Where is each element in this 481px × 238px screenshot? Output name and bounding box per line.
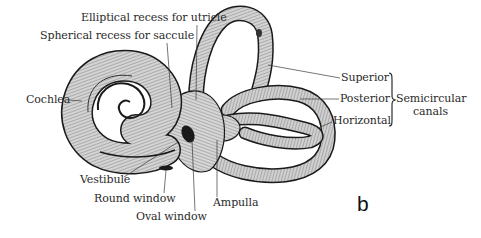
label-ampulla: Ampulla <box>213 197 258 209</box>
label-posterior: Posterior <box>340 93 390 105</box>
label-elliptical-recess: Elliptical recess for utricle <box>81 12 227 24</box>
inner-ear-figure: Elliptical recess for utricle Spherical … <box>0 0 481 238</box>
label-spherical-recess: Spherical recess for saccule <box>40 30 194 42</box>
round-window-shape <box>159 166 173 171</box>
superior-canal <box>196 13 266 100</box>
label-semicircular: Semicircular <box>396 93 466 105</box>
label-round-window: Round window <box>94 193 176 205</box>
label-canals: canals <box>413 106 448 118</box>
panel-letter: b <box>357 193 369 215</box>
label-oval-window: Oval window <box>136 211 207 223</box>
cochlea-shape <box>77 66 175 159</box>
label-horizontal: Horizontal <box>333 115 391 127</box>
label-vestibule: Vestibule <box>80 174 130 186</box>
label-superior: Superior <box>341 72 389 84</box>
label-cochlea: Cochlea <box>26 94 70 106</box>
